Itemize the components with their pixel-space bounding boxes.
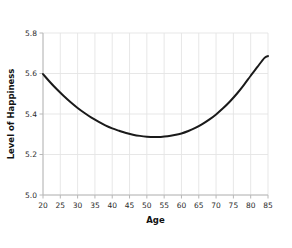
y-tick-label-5.2: 5.2 — [25, 150, 37, 159]
x-tick-label-50: 50 — [142, 201, 152, 210]
x-tick-label-55: 55 — [159, 201, 169, 210]
y-tick-label-5.4: 5.4 — [25, 110, 37, 119]
x-axis-title: Age — [146, 215, 165, 225]
y-tick-label-5.8: 5.8 — [25, 29, 37, 38]
x-tick-label-80: 80 — [246, 201, 256, 210]
chart-figure: 2025303540455055606570758085 5.05.25.45.… — [0, 0, 292, 248]
x-tick-label-40: 40 — [107, 201, 117, 210]
x-tick-label-60: 60 — [177, 201, 187, 210]
x-tick-label-25: 25 — [56, 201, 66, 210]
x-tick-label-45: 45 — [125, 201, 135, 210]
x-tick-label-20: 20 — [38, 201, 48, 210]
x-tick-label-85: 85 — [263, 201, 273, 210]
x-tick-label-30: 30 — [73, 201, 83, 210]
happiness-vs-age-line-chart: 2025303540455055606570758085 5.05.25.45.… — [0, 0, 292, 248]
x-tick-label-65: 65 — [194, 201, 204, 210]
x-tick-label-70: 70 — [211, 201, 221, 210]
y-tick-label-5.6: 5.6 — [25, 69, 37, 78]
y-axis-title: Level of Happiness — [6, 69, 16, 160]
x-tick-label-35: 35 — [90, 201, 100, 210]
x-tick-label-75: 75 — [229, 201, 239, 210]
y-tick-label-5.0: 5.0 — [25, 191, 37, 200]
